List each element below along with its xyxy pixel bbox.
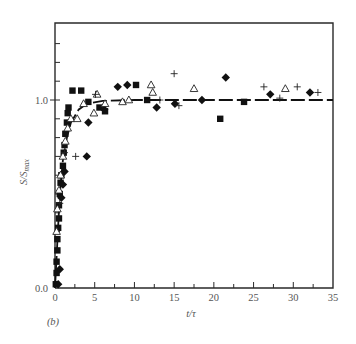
square-marker — [54, 236, 60, 242]
x-tick-label: 25 — [248, 292, 259, 303]
square-marker — [53, 258, 59, 264]
panel-label: (b) — [47, 316, 60, 328]
diamond-marker — [83, 152, 91, 160]
square-marker — [54, 247, 60, 253]
triangle-marker — [93, 90, 101, 97]
chart: 051015202530350.01.0 S/Smax t/τ (b) — [0, 0, 356, 344]
plus-marker — [156, 97, 163, 104]
diamond-marker — [266, 90, 274, 98]
square-marker — [69, 87, 75, 93]
diamond-marker — [114, 83, 122, 91]
square-marker — [65, 110, 71, 116]
diamond-marker — [198, 96, 206, 104]
fit-line — [55, 100, 333, 288]
x-axis-label: t/τ — [186, 308, 197, 319]
diamond-marker — [306, 88, 314, 96]
data-markers — [53, 70, 322, 288]
plot-axes: 051015202530350.01.0 — [35, 23, 338, 303]
x-tick-label: 0 — [52, 292, 57, 303]
fit-curve — [55, 100, 333, 288]
x-tick-label: 5 — [92, 292, 97, 303]
plus-marker — [260, 83, 267, 90]
plot-frame — [55, 23, 333, 288]
y-tick-label: 0.0 — [35, 283, 48, 294]
y-axis-label: S/Smax — [18, 158, 31, 185]
plus-marker — [294, 83, 301, 90]
square-marker — [62, 131, 68, 137]
plus-marker — [72, 153, 79, 160]
square-marker — [65, 104, 71, 110]
triangle-marker — [149, 88, 157, 95]
square-marker — [241, 99, 247, 105]
triangle-marker — [62, 137, 70, 144]
series-diamond-filled — [54, 73, 314, 288]
x-tick-label: 35 — [328, 292, 339, 303]
series-square-filled — [53, 82, 248, 288]
diamond-marker — [84, 118, 92, 126]
square-marker — [133, 82, 139, 88]
diamond-marker — [222, 73, 230, 81]
diamond-marker — [152, 103, 160, 111]
square-marker — [56, 215, 62, 221]
x-tick-label: 20 — [209, 292, 220, 303]
plus-marker — [314, 89, 321, 96]
diamond-marker — [123, 81, 131, 89]
x-tick-label: 15 — [169, 292, 180, 303]
plus-marker — [171, 70, 178, 77]
x-tick-label: 30 — [288, 292, 299, 303]
triangle-marker — [190, 85, 198, 92]
square-marker — [217, 116, 223, 122]
triangle-marker — [282, 85, 290, 92]
y-tick-label: 1.0 — [35, 95, 48, 106]
square-marker — [144, 97, 150, 103]
x-tick-label: 10 — [129, 292, 140, 303]
triangle-marker — [147, 81, 155, 88]
square-marker — [78, 87, 84, 93]
